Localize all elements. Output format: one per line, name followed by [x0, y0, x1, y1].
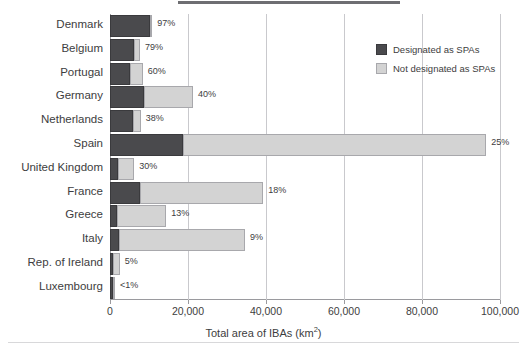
x-tick-label: 0 — [107, 305, 113, 317]
category-label-greece: Greece — [0, 208, 103, 220]
bar-segment-designated — [110, 205, 117, 227]
bar-segment-designated — [110, 86, 144, 108]
bar-value-label: <1% — [120, 280, 138, 290]
bar-value-label: 79% — [145, 42, 163, 52]
bar-value-label: 18% — [268, 185, 286, 195]
category-label-italy: Italy — [0, 232, 103, 244]
chart-figure: 97%79%60%40%38%25%30%18%13%9%5%<1% Denma… — [0, 0, 527, 348]
x-axis-title: Total area of IBAs (km2) — [0, 325, 527, 339]
bar-value-label: 97% — [157, 18, 175, 28]
bar-segment-not-designated — [140, 182, 263, 204]
bar-segment-designated — [110, 229, 119, 251]
category-label-portugal: Portugal — [0, 66, 103, 78]
bar-value-label: 30% — [139, 161, 157, 171]
bar-segment-not-designated — [113, 277, 115, 299]
bar-value-label: 5% — [125, 256, 138, 266]
bar-segment-not-designated — [118, 158, 134, 180]
legend-label: Designated as SPAs — [393, 44, 479, 55]
bar-segment-not-designated — [183, 134, 486, 156]
legend-label: Not designated as SPAs — [393, 63, 495, 74]
bar-value-label: 9% — [250, 232, 263, 242]
bar-segment-designated — [110, 182, 140, 204]
legend-item: Not designated as SPAs — [376, 59, 495, 78]
bar-segment-designated — [110, 39, 134, 61]
bar-segment-designated — [110, 253, 113, 275]
bar-segment-not-designated — [134, 39, 140, 61]
legend-swatch-icon — [376, 63, 387, 74]
bar-segment-not-designated — [130, 63, 142, 85]
bar-segment-not-designated — [133, 110, 140, 132]
bar-value-label: 25% — [491, 137, 509, 147]
bar-segment-not-designated — [150, 15, 152, 37]
bar-segment-designated — [110, 15, 150, 37]
bar-segment-designated — [110, 158, 118, 180]
x-tick-label: 80,000 — [406, 305, 438, 317]
x-tick — [188, 300, 189, 304]
chart-legend: Designated as SPAsNot designated as SPAs — [376, 40, 495, 78]
gridline-20000 — [188, 14, 189, 300]
gridline-100000 — [500, 14, 501, 300]
bar-segment-designated — [110, 134, 183, 156]
category-label-denmark: Denmark — [0, 18, 103, 30]
x-tick-label: 20,000 — [172, 305, 204, 317]
x-axis-title-text: Total area of IBAs (km — [205, 327, 313, 339]
bar-segment-not-designated — [119, 229, 245, 251]
bar-segment-not-designated — [117, 205, 166, 227]
gridline-60000 — [344, 14, 345, 300]
x-tick — [110, 300, 111, 304]
bar-segment-designated — [110, 110, 133, 132]
gridline-40000 — [266, 14, 267, 300]
category-label-france: France — [0, 185, 103, 197]
bar-segment-designated — [110, 277, 113, 299]
category-label-united-kingdom: United Kingdom — [0, 161, 103, 173]
bar-segment-not-designated — [144, 86, 193, 108]
category-label-netherlands: Netherlands — [0, 113, 103, 125]
x-axis-title-close: ) — [318, 327, 322, 339]
x-tick — [422, 300, 423, 304]
x-tick-label: 40,000 — [250, 305, 282, 317]
x-tick — [344, 300, 345, 304]
bar-value-label: 40% — [198, 89, 216, 99]
category-label-germany: Germany — [0, 89, 103, 101]
x-tick — [500, 300, 501, 304]
bottom-rule — [8, 342, 519, 343]
legend-swatch-icon — [376, 44, 387, 55]
category-label-rep-of-ireland: Rep. of Ireland — [0, 256, 103, 268]
bar-value-label: 38% — [146, 113, 164, 123]
x-tick-label: 60,000 — [328, 305, 360, 317]
category-label-belgium: Belgium — [0, 42, 103, 54]
title-rule — [178, 1, 400, 4]
x-tick-label: 100,000 — [481, 305, 519, 317]
legend-item: Designated as SPAs — [376, 40, 495, 59]
category-label-spain: Spain — [0, 137, 103, 149]
category-label-luxembourg: Luxembourg — [0, 280, 103, 292]
bar-segment-designated — [110, 63, 130, 85]
x-tick — [266, 300, 267, 304]
bar-value-label: 13% — [171, 208, 189, 218]
bar-segment-not-designated — [113, 253, 120, 275]
bar-value-label: 60% — [148, 66, 166, 76]
